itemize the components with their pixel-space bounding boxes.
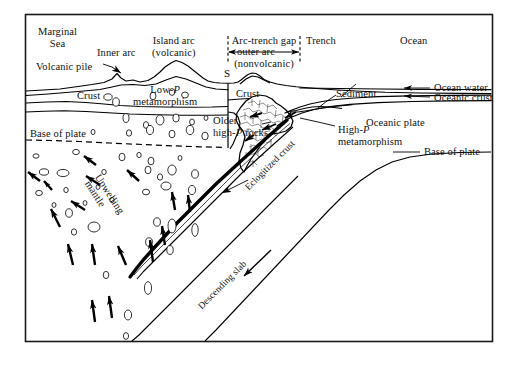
trench-label: Trench xyxy=(306,35,336,47)
older-high-p-rocks-label: Older high-P rocks xyxy=(213,115,268,139)
base-of-plate-left-label: Base of plate xyxy=(30,128,86,140)
arc-trench-gap-label: Arc-trench gap xyxy=(214,35,314,47)
sediment-label: Sediment xyxy=(336,88,376,100)
subduction-zone-cross-section-figure: Marginal Sea Inner arc Island arc (volca… xyxy=(0,0,511,371)
s-marker-label: S xyxy=(224,67,230,79)
crust-left-label: Crust xyxy=(77,90,100,102)
nonvolcanic-label: (nonvolcanic) xyxy=(220,58,308,70)
island-arc-label: Island arc (volcanic) xyxy=(152,35,196,59)
oceanic-crust-label: Oceanic crust xyxy=(434,92,493,104)
low-p-metamorphism-label: Low-P metamorphism xyxy=(133,84,197,108)
volcanic-pile-label: Volcanic pile xyxy=(36,61,92,73)
ocean-label: Ocean xyxy=(400,35,427,47)
base-of-plate-right-label: Base of plate xyxy=(424,146,480,158)
marginal-sea-label: Marginal Sea xyxy=(38,26,77,50)
high-p-metamorphism-label: High-P metamorphism xyxy=(338,124,402,148)
inner-arc-label: Inner arc xyxy=(97,47,136,59)
crust-right-label: Crust xyxy=(236,88,259,100)
outer-arc-label: outer arc xyxy=(237,46,275,58)
